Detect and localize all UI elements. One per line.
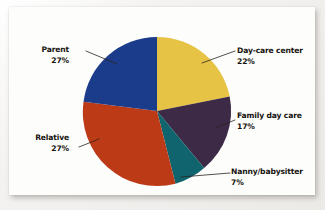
pie-label-parent-value: 27% bbox=[41, 56, 69, 67]
pie-label-family-day-care-value: 17% bbox=[237, 122, 302, 133]
figure-card: Day-care center 22% Family day care 17% … bbox=[9, 7, 315, 195]
pie-label-relative-text: Relative bbox=[35, 133, 69, 142]
pie-label-parent: Parent 27% bbox=[41, 45, 69, 66]
pie-label-day-care-center-value: 22% bbox=[237, 57, 303, 68]
pie-label-family-day-care-text: Family day care bbox=[237, 111, 302, 120]
pie-label-nanny-babysitter-text: Nanny/babysitter bbox=[231, 167, 303, 176]
pie-label-day-care-center: Day-care center 22% bbox=[237, 46, 303, 67]
pie-chart-figure: Day-care center 22% Family day care 17% … bbox=[9, 7, 315, 195]
pie-slice-parent[interactable] bbox=[84, 37, 157, 111]
pie-label-nanny-babysitter-value: 7% bbox=[231, 178, 303, 189]
pie-label-relative-value: 27% bbox=[35, 144, 69, 155]
pie-label-nanny-babysitter: Nanny/babysitter 7% bbox=[231, 167, 303, 188]
pie-label-relative: Relative 27% bbox=[35, 133, 69, 154]
pie-label-day-care-center-text: Day-care center bbox=[237, 46, 303, 55]
pie-label-parent-text: Parent bbox=[41, 45, 69, 54]
page-background: Day-care center 22% Family day care 17% … bbox=[0, 0, 325, 210]
pie-label-family-day-care: Family day care 17% bbox=[237, 111, 302, 132]
